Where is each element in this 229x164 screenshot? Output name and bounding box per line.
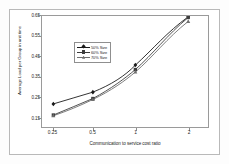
series-markers-60 — [52, 16, 190, 117]
x-tick-label: 1 — [125, 130, 147, 136]
series-canvas — [42, 16, 208, 127]
y-axis-title: Average Load per Group in unit time — [17, 6, 22, 116]
legend-item: 70% Size — [77, 55, 107, 60]
x-tick-label: 2 — [178, 130, 200, 136]
x-axis-title: Communication to service cost ratio — [41, 141, 209, 146]
legend-marker-triangle-icon — [77, 55, 90, 60]
y-tick-label: 0.65 — [20, 13, 40, 18]
chart-legend: 50% Size 60% Size 70% Size — [74, 42, 111, 63]
y-tick-label: 0.45 — [20, 54, 40, 59]
plot-area — [41, 15, 209, 128]
legend-label: 70% Size — [90, 55, 107, 60]
y-tick-label: 0.35 — [20, 74, 40, 79]
x-axis-ticks: 0.25 0.5 1 2 — [41, 130, 209, 140]
y-tick-label: 0.55 — [20, 33, 40, 38]
y-tick-label: 0.25 — [20, 95, 40, 100]
series-line-60 — [53, 17, 188, 115]
series-markers-70 — [51, 19, 190, 117]
series-line-70 — [53, 21, 188, 115]
x-tick-label: 0.5 — [82, 130, 104, 136]
y-tick-label: 0.15 — [20, 116, 40, 121]
x-tick-label: 0.25 — [42, 130, 64, 136]
series-markers-50 — [51, 16, 190, 106]
chart-figure: 0.65 0.55 0.45 0.35 0.25 0.15 — [0, 0, 229, 164]
